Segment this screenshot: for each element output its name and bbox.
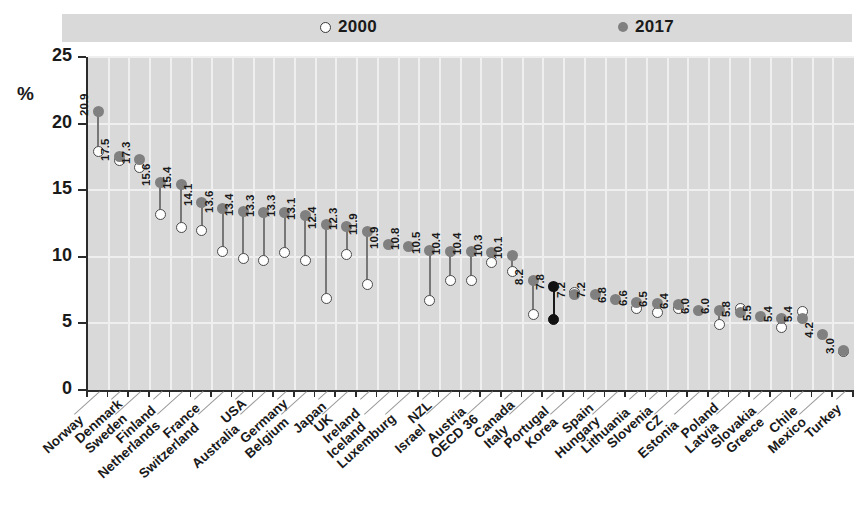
vertical-gridline — [770, 57, 772, 390]
x-axis-tick — [521, 390, 523, 397]
vertical-gridline — [729, 57, 731, 390]
vertical-gridline — [128, 57, 130, 390]
x-axis-tick — [314, 390, 316, 397]
data-value-label: 14.1 — [182, 184, 194, 206]
data-point-2000[interactable] — [238, 253, 249, 264]
data-value-label: 5.5 — [741, 305, 753, 321]
x-axis-tick — [355, 390, 357, 397]
chart-root: 2000 2017 % 20.917.517.315.615.414.113.6… — [0, 0, 859, 518]
y-tick-mark — [78, 389, 86, 391]
x-axis-tick — [811, 390, 813, 397]
x-axis-tick — [272, 390, 274, 397]
data-value-label: 20.9 — [78, 93, 90, 115]
label-leader-line — [753, 391, 763, 400]
data-point-2017[interactable] — [507, 250, 518, 261]
data-point-2000[interactable] — [714, 319, 725, 330]
data-point-2000[interactable] — [155, 209, 166, 220]
x-axis-tick — [438, 390, 440, 397]
vertical-gridline — [273, 57, 275, 390]
vertical-gridline — [522, 57, 524, 390]
data-point-2000[interactable] — [258, 255, 269, 266]
data-value-label: 10.8 — [389, 228, 401, 250]
x-axis-tick — [748, 390, 750, 397]
chart-legend: 2000 2017 — [62, 14, 852, 42]
x-axis-tick — [334, 390, 336, 397]
data-point-2000[interactable] — [176, 222, 187, 233]
data-value-label: 4.2 — [803, 322, 815, 338]
connector-stem — [325, 225, 327, 298]
vertical-gridline — [460, 57, 462, 390]
data-point-2000[interactable] — [466, 275, 477, 286]
legend-item-2017[interactable]: 2017 — [618, 17, 674, 37]
vertical-gridline — [584, 57, 586, 390]
x-axis-tick — [293, 390, 295, 397]
data-value-label: 12.3 — [327, 208, 339, 230]
x-axis-tick — [541, 390, 543, 397]
data-point-2000[interactable] — [528, 309, 539, 320]
y-tick-label: 10 — [32, 245, 72, 266]
legend-item-2000[interactable]: 2000 — [320, 17, 377, 37]
x-axis-tick — [852, 390, 854, 397]
label-leader-line — [587, 391, 597, 400]
x-axis-tick — [252, 390, 254, 397]
x-axis-tick — [376, 390, 378, 397]
data-point-2000[interactable] — [445, 275, 456, 286]
x-axis-tick — [645, 390, 647, 397]
data-value-label: 3.0 — [824, 338, 836, 354]
data-value-label: 13.3 — [244, 194, 256, 216]
data-value-label: 15.4 — [161, 166, 173, 188]
x-axis-tick — [583, 390, 585, 397]
vertical-gridline — [211, 57, 213, 390]
vertical-gridline — [377, 57, 379, 390]
horizontal-gridline — [88, 123, 854, 125]
vertical-gridline — [812, 57, 814, 390]
data-point-2000[interactable] — [362, 279, 373, 290]
data-value-label: 10.4 — [451, 233, 463, 255]
legend-label-2000: 2000 — [338, 17, 377, 37]
data-value-label: 13.4 — [223, 193, 235, 215]
vertical-gridline — [418, 57, 420, 390]
data-point-2000[interactable] — [321, 293, 332, 304]
data-value-label: 7.2 — [575, 282, 587, 298]
x-axis-tick — [86, 390, 88, 397]
data-point-2000[interactable] — [196, 225, 207, 236]
x-axis-tick — [479, 390, 481, 397]
x-axis-tick — [707, 390, 709, 397]
data-value-label: 10.1 — [492, 237, 504, 259]
data-value-label: 6.5 — [637, 291, 649, 307]
connector-stem — [429, 250, 431, 301]
data-value-label: 11.9 — [347, 214, 359, 236]
data-value-label: 5.8 — [720, 301, 732, 317]
label-leader-line — [629, 391, 639, 400]
label-leader-line — [794, 391, 804, 400]
data-value-label: 7.2 — [555, 282, 567, 298]
vertical-gridline — [563, 57, 565, 390]
y-axis-title: % — [17, 83, 34, 105]
vertical-gridline — [170, 57, 172, 390]
y-tick-mark — [78, 189, 86, 191]
x-axis-tick — [417, 390, 419, 397]
x-axis-tick — [459, 390, 461, 397]
data-value-label: 15.6 — [140, 164, 152, 186]
x-axis-tick — [148, 390, 150, 397]
data-value-label: 10.9 — [368, 226, 380, 248]
data-value-label: 6.4 — [658, 293, 670, 309]
label-leader-line — [711, 391, 721, 400]
data-point-2017[interactable] — [838, 345, 849, 356]
vertical-gridline — [667, 57, 669, 390]
x-axis-tick — [190, 390, 192, 397]
data-point-2000[interactable] — [217, 246, 228, 257]
x-axis-tick — [728, 390, 730, 397]
x-axis-tick — [210, 390, 212, 397]
label-leader-line — [546, 391, 556, 400]
x-axis-tick — [107, 390, 109, 397]
data-value-label: 13.1 — [285, 197, 297, 219]
data-value-label: 6.0 — [679, 298, 691, 314]
data-point-2000[interactable] — [424, 295, 435, 306]
data-point-2000[interactable] — [300, 255, 311, 266]
data-value-label: 10.3 — [472, 234, 484, 256]
data-point-2017[interactable] — [93, 106, 104, 117]
data-value-label: 13.3 — [265, 194, 277, 216]
data-point-2000[interactable] — [341, 249, 352, 260]
horizontal-gridline — [88, 56, 854, 58]
